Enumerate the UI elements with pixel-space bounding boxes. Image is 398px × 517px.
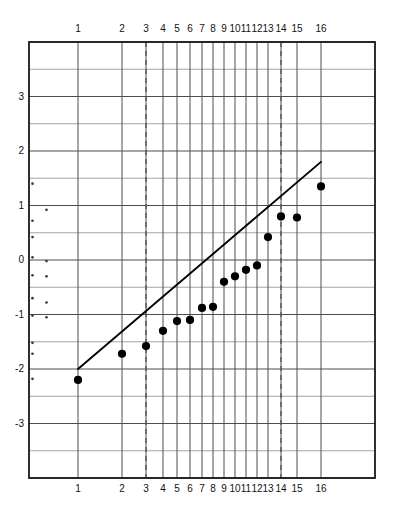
x-axis-tick-label-bottom-13: 13 (262, 484, 273, 494)
rug-mark-5 (45, 260, 48, 263)
x-axis-tick-label-top-11: 11 (241, 24, 251, 34)
rug-mark-3 (31, 236, 34, 239)
x-axis-tick-label-top-5: 5 (174, 24, 180, 34)
x-axis-tick-label-top-3: 3 (143, 24, 149, 34)
x-axis-tick-label-bottom-9: 9 (221, 484, 227, 494)
x-axis-tick-label-bottom-12: 12 (251, 484, 262, 494)
y-axis-tick-label-1: 1 (2, 201, 24, 211)
x-axis-tick-label-bottom-14: 14 (275, 484, 286, 494)
data-point-rank-10[interactable] (231, 272, 239, 280)
rug-mark-2 (31, 219, 34, 222)
x-axis-tick-label-top-9: 9 (221, 24, 227, 34)
data-point-rank-7[interactable] (198, 304, 206, 312)
y-axis-tick-label--3: -3 (2, 419, 24, 429)
x-axis-tick-label-top-2: 2 (119, 24, 125, 34)
x-axis-tick-label-top-12: 12 (251, 24, 262, 34)
x-axis-tick-label-top-16: 16 (315, 24, 326, 34)
chart-canvas: 1122334455667788991010111112121313141415… (0, 0, 398, 517)
y-axis-tick-label--1: -1 (2, 310, 24, 320)
x-axis-tick-label-top-14: 14 (275, 24, 286, 34)
x-axis-tick-label-top-4: 4 (160, 24, 166, 34)
data-point-rank-6[interactable] (186, 316, 194, 324)
y-axis-tick-label-0: 0 (2, 255, 24, 265)
y-axis-tick-label--2: -2 (2, 364, 24, 374)
rug-mark-4 (31, 256, 34, 259)
data-point-rank-13[interactable] (264, 233, 272, 241)
normal-probability-plot-svg (0, 0, 398, 517)
data-point-rank-5[interactable] (173, 317, 181, 325)
data-point-rank-14[interactable] (277, 212, 285, 220)
data-point-rank-16[interactable] (317, 182, 325, 190)
data-point-rank-3[interactable] (142, 342, 150, 350)
rug-mark-6 (31, 274, 34, 277)
rug-mark-11 (45, 316, 48, 319)
x-axis-tick-label-top-1: 1 (75, 24, 81, 34)
x-axis-tick-label-bottom-15: 15 (291, 484, 302, 494)
x-axis-tick-label-top-6: 6 (187, 24, 193, 34)
x-axis-tick-label-top-13: 13 (262, 24, 273, 34)
x-axis-tick-label-bottom-3: 3 (143, 484, 149, 494)
data-point-rank-9[interactable] (220, 278, 228, 286)
rug-mark-7 (45, 275, 48, 278)
data-point-rank-8[interactable] (209, 303, 217, 311)
rug-mark-14 (31, 377, 34, 380)
rug-mark-0 (31, 182, 34, 185)
y-axis-tick-label-3: 3 (2, 92, 24, 102)
rug-mark-10 (31, 314, 34, 317)
x-axis-tick-label-bottom-2: 2 (119, 484, 125, 494)
data-point-rank-4[interactable] (159, 327, 167, 335)
data-point-rank-2[interactable] (118, 350, 126, 358)
data-point-rank-12[interactable] (253, 261, 261, 269)
x-axis-tick-label-bottom-10: 10 (229, 484, 240, 494)
x-axis-tick-label-bottom-8: 8 (210, 484, 216, 494)
x-axis-tick-label-bottom-11: 11 (241, 484, 251, 494)
rug-mark-13 (31, 352, 34, 355)
rug-mark-1 (45, 209, 48, 212)
data-point-rank-1[interactable] (74, 376, 82, 384)
x-axis-tick-label-bottom-16: 16 (315, 484, 326, 494)
x-axis-tick-label-bottom-4: 4 (160, 484, 166, 494)
x-axis-tick-label-top-15: 15 (291, 24, 302, 34)
x-axis-tick-label-top-10: 10 (229, 24, 240, 34)
x-axis-tick-label-bottom-5: 5 (174, 484, 180, 494)
rug-mark-12 (31, 341, 34, 344)
x-axis-tick-label-bottom-6: 6 (187, 484, 193, 494)
data-point-rank-11[interactable] (242, 266, 250, 274)
rug-mark-9 (45, 301, 48, 304)
x-axis-tick-label-bottom-1: 1 (75, 484, 81, 494)
rug-mark-8 (31, 297, 34, 300)
y-axis-tick-label-2: 2 (2, 146, 24, 156)
x-axis-tick-label-top-7: 7 (199, 24, 205, 34)
data-point-rank-15[interactable] (293, 213, 301, 221)
x-axis-tick-label-bottom-7: 7 (199, 484, 205, 494)
x-axis-tick-label-top-8: 8 (210, 24, 216, 34)
